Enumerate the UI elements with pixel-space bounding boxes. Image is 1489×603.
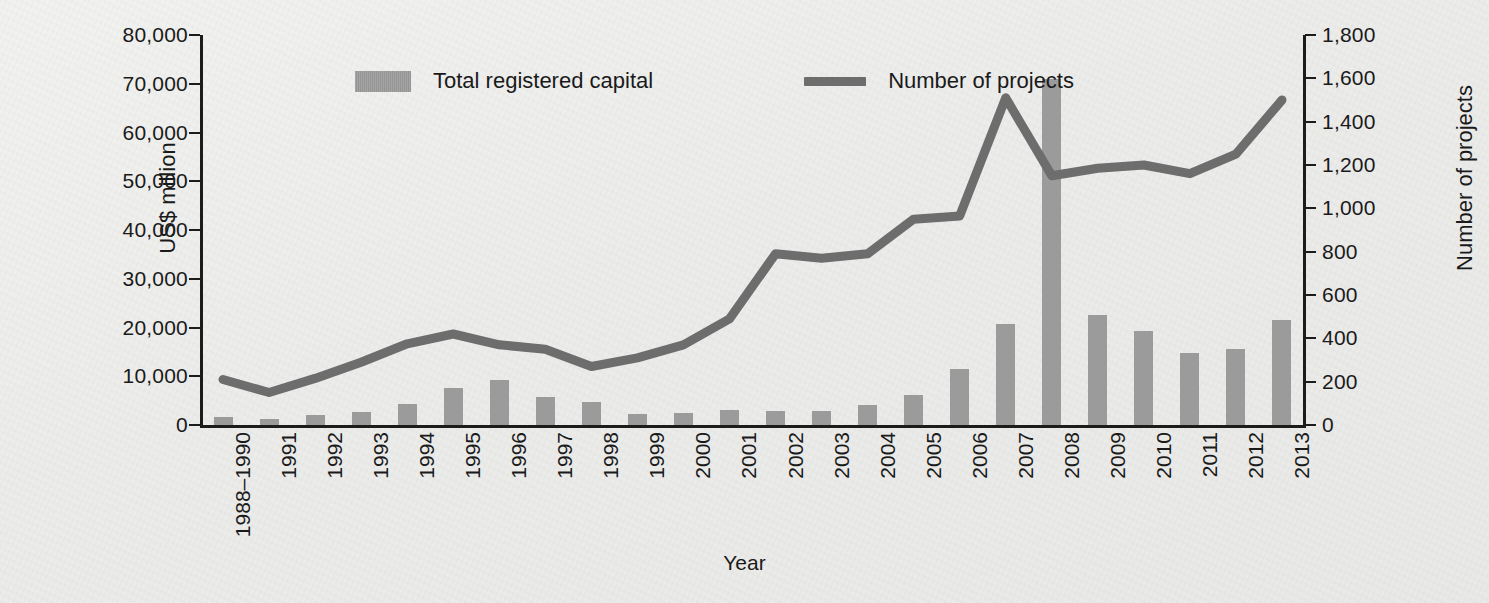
x-axis-tick-label: 2010 (1153, 432, 1174, 479)
right-axis-tick-label: 200 (1322, 371, 1358, 392)
right-axis-tick-label: 1,000 (1322, 197, 1376, 218)
x-axis-tick-label: 1996 (508, 432, 529, 479)
left-axis-tick (189, 83, 200, 85)
right-axis-tick-label: 800 (1322, 241, 1358, 262)
left-axis-tick-label: 10,000 (123, 365, 188, 386)
right-axis-tick-label: 1,800 (1322, 24, 1376, 45)
right-axis-tick (1305, 77, 1316, 79)
x-axis-tick-label: 2012 (1245, 432, 1266, 479)
left-axis-tick-label: 20,000 (123, 317, 188, 338)
x-axis-tick-label: 1999 (646, 432, 667, 479)
right-axis-tick (1305, 251, 1316, 253)
chart-legend: Total registered capital Number of proje… (355, 68, 1074, 94)
x-axis-tick-label: 1994 (416, 432, 437, 479)
left-axis-tick (189, 375, 200, 377)
x-axis-tick-label: 2007 (1015, 432, 1036, 479)
legend-label-total-registered-capital: Total registered capital (433, 68, 653, 94)
right-axis-tick-label: 400 (1322, 327, 1358, 348)
left-axis-tick-label: 40,000 (123, 219, 188, 240)
left-axis-tick-label: 80,000 (123, 24, 188, 45)
right-axis-tick-label: 1,200 (1322, 154, 1376, 175)
left-axis-tick-label: 0 (176, 414, 188, 435)
left-axis-tick (189, 34, 200, 36)
line-swatch-icon (804, 77, 866, 86)
left-axis-tick (189, 278, 200, 280)
x-axis-tick-label: 2004 (877, 432, 898, 479)
right-axis-tick-label: 1,400 (1322, 111, 1376, 132)
bar-swatch-icon (355, 71, 411, 92)
x-axis-tick-label: 2002 (785, 432, 806, 479)
right-axis-tick-label: 1,600 (1322, 67, 1376, 88)
x-axis-tick-label: 2001 (738, 432, 759, 479)
right-axis-tick-label: 0 (1322, 414, 1334, 435)
x-axis-tick-label: 1998 (600, 432, 621, 479)
left-axis-tick-label: 50,000 (123, 170, 188, 191)
legend-item-total-registered-capital: Total registered capital (355, 68, 653, 94)
x-axis-tick-label: 1991 (278, 432, 299, 479)
x-axis-tick-label: 2008 (1061, 432, 1082, 479)
bottom-axis-line (200, 425, 1306, 428)
right-axis-tick (1305, 164, 1316, 166)
left-axis-tick (189, 327, 200, 329)
right-axis-tick (1305, 207, 1316, 209)
left-axis-tick (189, 229, 200, 231)
chart-figure: US$ million Number of projects 010,00020… (0, 0, 1489, 603)
left-axis-tick (189, 180, 200, 182)
left-axis-tick-label: 70,000 (123, 73, 188, 94)
x-axis-tick-label: 2005 (923, 432, 944, 479)
right-axis-tick (1305, 121, 1316, 123)
legend-label-number-of-projects: Number of projects (888, 68, 1074, 94)
right-axis-tick (1305, 381, 1316, 383)
right-axis-tick (1305, 337, 1316, 339)
x-axis-tick-label: 1992 (324, 432, 345, 479)
x-axis-title: Year (0, 551, 1489, 575)
right-axis-tick (1305, 424, 1316, 426)
x-axis-tick-label: 2006 (969, 432, 990, 479)
legend-item-number-of-projects: Number of projects (804, 68, 1074, 94)
x-axis-tick-label: 2009 (1107, 432, 1128, 479)
x-axis-tick-label: 1997 (554, 432, 575, 479)
right-axis-tick (1305, 34, 1316, 36)
x-axis-tick-label: 2011 (1199, 432, 1220, 477)
x-axis-tick-label: 2000 (692, 432, 713, 479)
left-axis-tick-label: 60,000 (123, 122, 188, 143)
left-axis-tick-label: 30,000 (123, 268, 188, 289)
x-axis-tick-label: 2003 (831, 432, 852, 479)
x-axis-tick-label: 1995 (462, 432, 483, 479)
x-axis-tick-label: 1988–1990 (232, 432, 253, 537)
left-axis-tick (189, 424, 200, 426)
right-axis-title: Number of projects (1452, 33, 1478, 323)
x-axis-tick-labels: 1988–19901991199219931994199519961997199… (200, 432, 1305, 552)
x-axis-tick-label: 2013 (1291, 432, 1312, 479)
x-axis-tick-label: 1993 (370, 432, 391, 479)
right-axis-tick (1305, 294, 1316, 296)
left-axis-tick (189, 132, 200, 134)
right-axis-tick-label: 600 (1322, 284, 1358, 305)
